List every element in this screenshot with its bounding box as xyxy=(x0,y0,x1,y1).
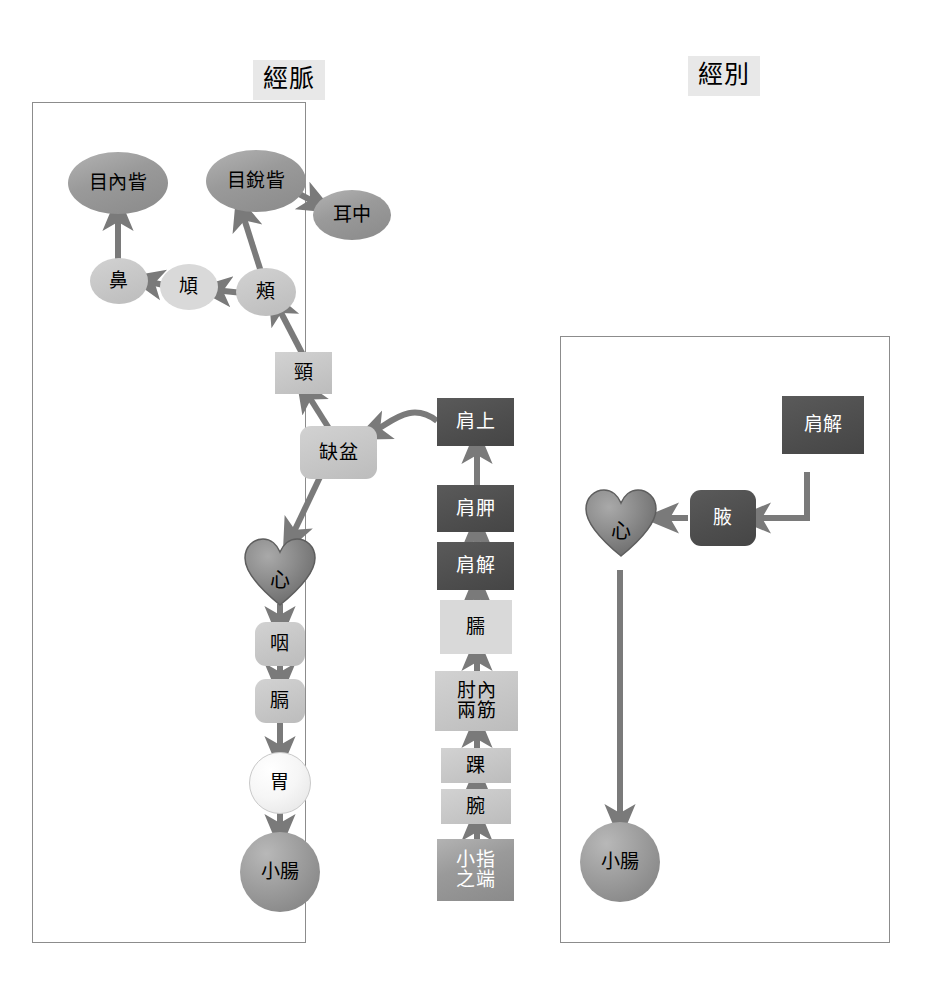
node-wrist[interactable]: 腕 xyxy=(441,789,511,824)
node-inner-canthus[interactable]: 目內眥 xyxy=(68,152,168,214)
node-heart[interactable]: 心 xyxy=(243,537,317,607)
panel-meridian xyxy=(32,102,306,943)
node-ear-middle[interactable]: 耳中 xyxy=(313,190,391,240)
node-label-line2: 之端 xyxy=(456,870,495,890)
node-supraclavicular-fossa[interactable]: 缺盆 xyxy=(300,426,377,479)
node-d-axilla[interactable]: 腋 xyxy=(690,490,756,546)
node-elbow-two-tendons[interactable]: 肘內 兩筋 xyxy=(435,671,518,731)
node-label: 目銳眥 xyxy=(227,171,286,191)
node-shoulder-joint[interactable]: 肩解 xyxy=(437,542,514,590)
node-label: 肩解 xyxy=(804,415,843,435)
node-label: 小腸 xyxy=(601,852,640,872)
node-label: 小腸 xyxy=(261,862,300,882)
panel-caption-divergent: 經別 xyxy=(688,56,760,96)
node-neck[interactable]: 頸 xyxy=(275,352,332,394)
node-diaphragm[interactable]: 膈 xyxy=(255,679,305,723)
node-label: 缺盆 xyxy=(319,443,358,463)
node-throat[interactable]: 咽 xyxy=(255,622,305,666)
panel-caption-meridian: 經脈 xyxy=(253,60,325,100)
node-label-line2: 兩筋 xyxy=(457,701,496,721)
node-label: 鼻 xyxy=(109,271,129,291)
node-label: 頰 xyxy=(256,282,276,302)
node-ankle-bone[interactable]: 踝 xyxy=(441,748,511,783)
node-label: 頸 xyxy=(294,363,314,383)
node-label: 腋 xyxy=(713,508,733,528)
node-d-shoulder-joint[interactable]: 肩解 xyxy=(782,396,864,454)
node-shoulder-top[interactable]: 肩上 xyxy=(437,398,514,446)
node-nose[interactable]: 鼻 xyxy=(90,258,148,304)
node-little-finger-tip[interactable]: 小指 之端 xyxy=(437,839,514,901)
node-label: 肩上 xyxy=(456,412,495,432)
node-d-small-intestine[interactable]: 小腸 xyxy=(580,822,660,902)
node-label: 耳中 xyxy=(333,205,372,225)
node-cheekbone[interactable]: 頄 xyxy=(160,264,218,310)
node-label: 咽 xyxy=(270,634,290,654)
node-outer-canthus[interactable]: 目銳眥 xyxy=(206,150,306,212)
node-stomach[interactable]: 胃 xyxy=(249,752,311,814)
node-scapula[interactable]: 肩胛 xyxy=(437,485,514,532)
node-label: 胃 xyxy=(270,773,290,793)
node-small-intestine[interactable]: 小腸 xyxy=(240,832,320,912)
node-label: 腕 xyxy=(466,797,486,817)
edge-fossa-to-neck xyxy=(306,392,330,430)
node-label: 肩胛 xyxy=(456,499,495,519)
diagram-canvas: 經脈 經別 xyxy=(0,0,927,1008)
node-upper-arm[interactable]: 臑 xyxy=(440,600,512,654)
node-label: 踝 xyxy=(466,756,486,776)
node-cheek[interactable]: 頰 xyxy=(236,268,296,316)
node-d-heart[interactable]: 心 xyxy=(584,488,658,558)
node-label: 目內眥 xyxy=(89,173,148,193)
node-label: 肩解 xyxy=(456,556,495,576)
node-label: 臑 xyxy=(466,617,486,637)
node-label: 頄 xyxy=(179,277,199,297)
edge-shoulder-top-to-fossa xyxy=(372,413,437,432)
node-label: 膈 xyxy=(270,691,290,711)
